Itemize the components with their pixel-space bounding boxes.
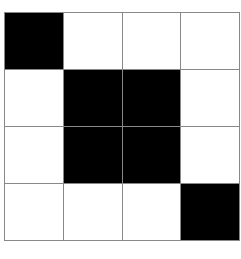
grid-cell-r3-c2 xyxy=(123,184,181,240)
grid-cell-r1-c3 xyxy=(181,70,239,126)
grid-cell-r0-c3 xyxy=(181,13,239,69)
grid-cell-r2-c2 xyxy=(123,127,181,183)
grid-cell-r1-c1 xyxy=(64,70,122,126)
grid-cell-r2-c1 xyxy=(64,127,122,183)
grid-cell-r1-c2 xyxy=(123,70,181,126)
grid-cell-r2-c0 xyxy=(5,127,63,183)
grid-cell-r2-c3 xyxy=(181,127,239,183)
binary-grid xyxy=(4,12,240,241)
grid-cell-r3-c3 xyxy=(181,184,239,240)
grid-cell-r0-c2 xyxy=(123,13,181,69)
grid-cell-r3-c1 xyxy=(64,184,122,240)
grid-cell-r0-c0 xyxy=(5,13,63,69)
grid-cell-r3-c0 xyxy=(5,184,63,240)
grid-cell-r0-c1 xyxy=(64,13,122,69)
grid-cell-r1-c0 xyxy=(5,70,63,126)
